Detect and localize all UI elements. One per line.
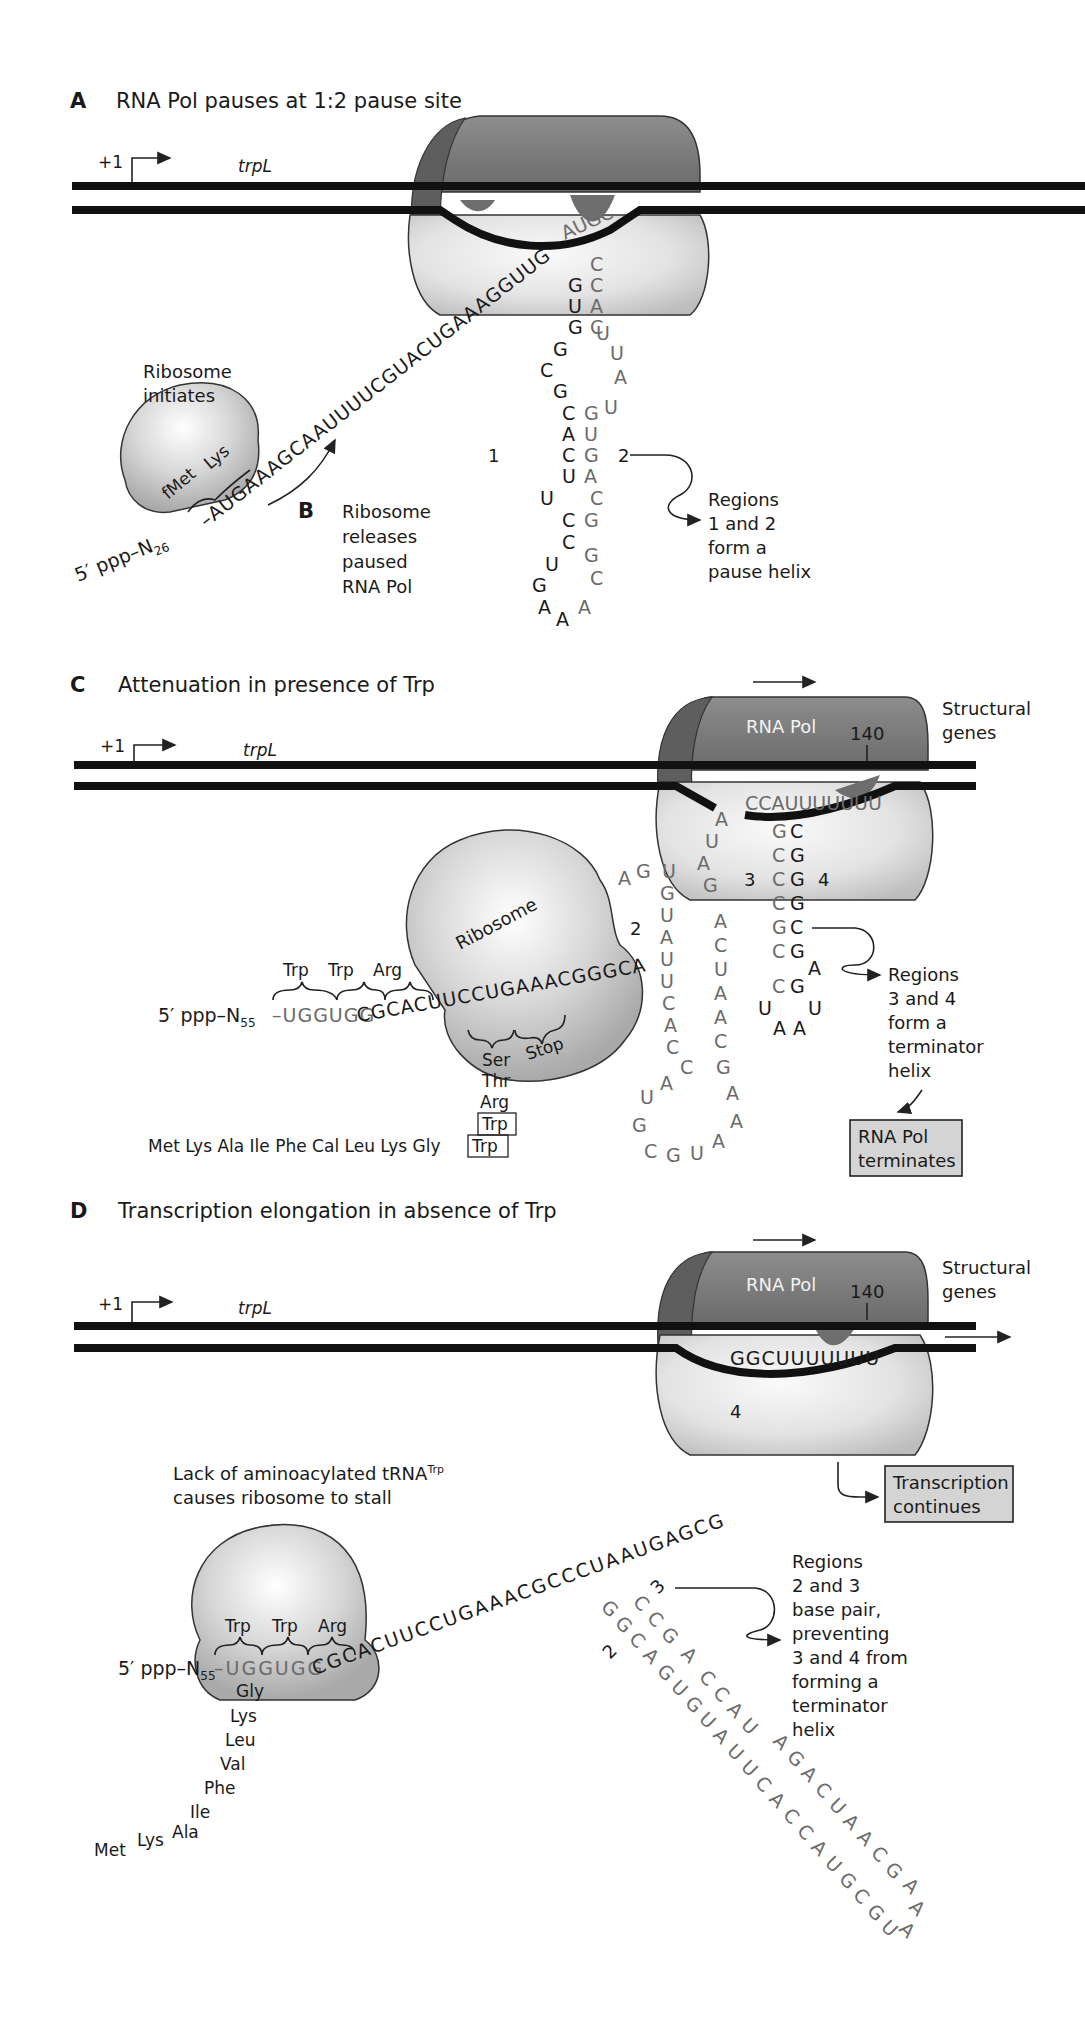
terminates-arrow-icon xyxy=(898,1090,922,1112)
terminator-arrow-icon xyxy=(812,928,880,975)
svg-text:G: G xyxy=(553,338,568,360)
terminates-line2: terminates xyxy=(858,1150,956,1171)
pause-note-line3: form a xyxy=(708,537,767,558)
svg-text:G: G xyxy=(790,844,805,866)
svg-text:C: C xyxy=(590,316,603,338)
svg-text:G: G xyxy=(716,1056,731,1078)
peptide-lys-2: Lys xyxy=(137,1830,164,1850)
svg-text:A: A xyxy=(723,1697,748,1722)
svg-text:C: C xyxy=(643,1606,668,1631)
svg-text:U: U xyxy=(714,958,728,980)
svg-text:A: A xyxy=(618,867,631,889)
panel-a: A RNA Pol pauses at 1:2 pause site +1 tr… xyxy=(70,89,1085,630)
region-2-label-d: 2 xyxy=(598,1640,621,1663)
pol-lobe xyxy=(460,200,495,211)
svg-text:A: A xyxy=(808,957,821,979)
pause-helix-arrow-icon xyxy=(630,455,700,520)
five-prime-end-a: 5′ ppp–N26 xyxy=(71,529,171,590)
svg-text:A: A xyxy=(839,1809,864,1834)
anti-note-line1: Regions xyxy=(792,1551,863,1572)
svg-text:A: A xyxy=(714,910,727,932)
svg-text:A: A xyxy=(709,1723,734,1748)
svg-text:U: U xyxy=(604,396,618,418)
svg-text:C: C xyxy=(849,1883,874,1908)
pol-rna-seq: GGCUUUUUUU xyxy=(730,1347,880,1369)
svg-text:C: C xyxy=(779,1803,804,1828)
svg-text:A: A xyxy=(664,1014,677,1036)
five-prime-end-c: 5′ ppp–N55 xyxy=(158,1004,256,1030)
peptide-ala: Ala xyxy=(172,1822,199,1842)
svg-text:A: A xyxy=(730,1110,743,1132)
svg-text:G: G xyxy=(790,940,805,962)
svg-text:C: C xyxy=(562,444,575,466)
ribosome-initiates-line2: initiates xyxy=(143,385,215,406)
peptide-chain-c: Met Lys Ala Ile Phe Cal Leu Lys Gly xyxy=(148,1136,441,1156)
svg-text:A: A xyxy=(905,1895,930,1920)
svg-text:U: U xyxy=(545,553,559,575)
svg-text:U: U xyxy=(640,1086,654,1108)
svg-text:A: A xyxy=(697,852,710,874)
svg-text:U: U xyxy=(723,1739,748,1764)
svg-text:C: C xyxy=(625,1627,650,1652)
svg-text:C: C xyxy=(790,820,803,842)
aa-arg: Arg xyxy=(480,1092,509,1112)
svg-text:G: G xyxy=(783,1745,809,1771)
gene-label-trpL: trpL xyxy=(238,1298,272,1318)
promoter-arrow-icon xyxy=(132,158,170,184)
svg-text:U: U xyxy=(737,1713,762,1738)
svg-text:G: G xyxy=(568,274,583,296)
region-2-label: 2 xyxy=(618,445,629,466)
rna-pol-top xyxy=(418,116,700,192)
codon-arg: Arg xyxy=(318,1616,347,1636)
svg-text:A: A xyxy=(773,1017,786,1039)
anti-note-line3: base pair, xyxy=(792,1599,881,1620)
codon-trp-2: Trp xyxy=(271,1616,298,1636)
ribosome-initiates-line1: Ribosome xyxy=(143,361,232,382)
svg-text:G: G xyxy=(611,1611,637,1637)
panel-a-title: RNA Pol pauses at 1:2 pause site xyxy=(116,89,462,113)
svg-text:C: C xyxy=(662,992,675,1014)
svg-text:C: C xyxy=(590,253,603,275)
svg-text:A: A xyxy=(677,1642,702,1667)
pause-note-line2: 1 and 2 xyxy=(708,513,776,534)
svg-text:C: C xyxy=(590,567,603,589)
structural-genes-line2: genes xyxy=(942,722,996,743)
anti-note-line2: 2 and 3 xyxy=(792,1575,860,1596)
peptide-gly: Gly xyxy=(236,1681,264,1701)
svg-text:G: G xyxy=(660,882,675,904)
svg-text:A: A xyxy=(793,1017,806,1039)
svg-text:G: G xyxy=(632,1114,647,1136)
svg-text:A: A xyxy=(899,1873,924,1898)
continues-arrow-icon xyxy=(838,1462,878,1497)
svg-text:U: U xyxy=(690,1142,704,1164)
codon-trp-1: Trp xyxy=(224,1616,251,1636)
terminator-note-line5: helix xyxy=(888,1060,931,1081)
rna-pol-label: RNA Pol xyxy=(746,1274,816,1295)
stall-line1: Lack of aminoacylated tRNATrp xyxy=(173,1463,444,1484)
svg-text:G: G xyxy=(584,509,599,531)
svg-text:C: C xyxy=(540,359,553,381)
leader-seq-grey-d: –UGGUGG xyxy=(214,1657,324,1679)
anti-note-line6: forming a xyxy=(792,1671,879,1692)
region-4-label: 4 xyxy=(818,869,829,890)
panel-c: C Attenuation in presence of Trp +1 trpL… xyxy=(70,673,1031,1176)
svg-text:A: A xyxy=(578,596,591,618)
svg-text:C: C xyxy=(709,1681,734,1706)
region-4-label-d: 4 xyxy=(730,1401,741,1422)
svg-text:U: U xyxy=(660,970,674,992)
svg-text:G: G xyxy=(666,1144,681,1166)
region-1-label: 1 xyxy=(488,445,499,466)
antiterminator-arrow-icon xyxy=(675,1588,780,1640)
svg-text:C: C xyxy=(772,940,785,962)
svg-text:C: C xyxy=(666,1036,679,1058)
aa-thr: Thr xyxy=(481,1071,510,1091)
anti-note-line7: terminator xyxy=(792,1695,888,1716)
terminator-note-line1: Regions xyxy=(888,964,959,985)
anti-note-line8: helix xyxy=(792,1719,835,1740)
panel-a-letter: A xyxy=(70,89,87,113)
peptide-met: Met xyxy=(94,1840,126,1860)
svg-text:U: U xyxy=(808,997,822,1019)
position-140: 140 xyxy=(850,1281,884,1302)
continues-line2: continues xyxy=(893,1496,981,1517)
svg-text:C: C xyxy=(680,1056,693,1078)
